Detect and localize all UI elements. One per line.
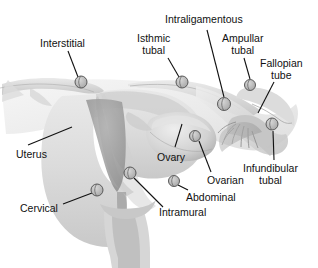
label-ampullar-tubal: Ampullar tubal <box>222 33 263 56</box>
anatomy-diagram: Interstitial Isthmic tubal Intraligament… <box>0 0 318 268</box>
label-infundibular-tubal: Infundibular tubal <box>243 163 298 186</box>
label-interstitial: Interstitial <box>40 38 85 50</box>
label-isthmic-tubal: Isthmic tubal <box>137 33 170 56</box>
label-intramural: Intramural <box>159 207 206 219</box>
label-ovary: Ovary <box>157 152 185 164</box>
label-intraligamentous: Intraligamentous <box>165 14 243 26</box>
label-abdominal: Abdominal <box>186 192 236 204</box>
label-layer: Interstitial Isthmic tubal Intraligament… <box>0 0 318 268</box>
label-uterus: Uterus <box>16 149 47 161</box>
label-cervical: Cervical <box>20 203 58 215</box>
label-fallopian-tube: Fallopian tube <box>260 58 303 81</box>
label-ovarian: Ovarian <box>207 175 244 187</box>
